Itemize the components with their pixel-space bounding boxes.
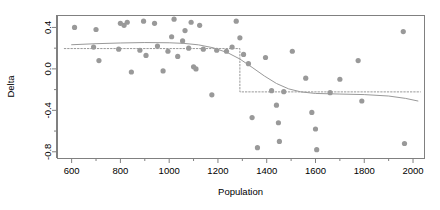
x-tick-label: 1400	[256, 165, 277, 176]
data-point	[182, 28, 187, 33]
data-point	[143, 53, 148, 58]
data-point	[125, 20, 130, 25]
scatter-plot-figure: 600800100012001400160018002000 0.40.0-0.…	[0, 0, 440, 210]
data-point	[234, 19, 239, 24]
data-point	[274, 103, 279, 108]
data-point	[276, 120, 281, 125]
y-tick-label: -0.8	[42, 144, 53, 160]
data-point	[93, 27, 98, 32]
y-tick-label: 0.4	[42, 21, 53, 34]
data-point	[281, 89, 286, 94]
data-point	[175, 54, 180, 59]
data-point	[303, 76, 308, 81]
data-point	[129, 69, 134, 74]
x-tick-label: 1600	[305, 165, 326, 176]
y-axis: 0.40.0-0.4-0.8	[42, 15, 57, 160]
data-point	[165, 49, 170, 54]
data-point	[155, 43, 160, 48]
y-tick-label: -0.4	[42, 102, 53, 118]
data-point	[356, 58, 361, 63]
data-point	[180, 38, 185, 43]
y-tick-label: 0.0	[42, 62, 53, 75]
data-point	[152, 21, 157, 26]
data-point	[314, 147, 319, 152]
data-point	[209, 92, 214, 97]
chart-canvas: 600800100012001400160018002000 0.40.0-0.…	[0, 0, 440, 210]
data-point	[116, 47, 121, 52]
data-point	[96, 58, 101, 63]
data-point	[189, 20, 194, 25]
data-point	[72, 25, 77, 30]
data-point	[193, 66, 198, 71]
data-point	[269, 88, 274, 93]
data-point	[290, 49, 295, 54]
data-point	[309, 110, 314, 115]
data-point	[359, 98, 364, 103]
data-point	[401, 29, 406, 34]
data-point	[141, 19, 146, 24]
x-axis: 600800100012001400160018002000	[57, 158, 424, 176]
data-point	[255, 145, 260, 150]
x-tick-label: 1800	[354, 165, 375, 176]
x-tick-label: 600	[64, 165, 80, 176]
data-point	[224, 49, 229, 54]
data-point	[229, 45, 234, 50]
data-point	[171, 17, 176, 22]
data-point	[214, 48, 219, 53]
data-point	[337, 77, 342, 82]
x-tick-label: 1200	[207, 165, 228, 176]
data-point	[328, 90, 333, 95]
x-tick-label: 1000	[159, 165, 180, 176]
x-axis-title: Population	[218, 186, 263, 197]
data-point	[402, 141, 407, 146]
data-point	[137, 48, 142, 53]
x-tick-label: 800	[112, 165, 128, 176]
data-point	[186, 46, 191, 51]
data-point	[313, 126, 318, 131]
data-point	[91, 45, 96, 50]
data-point	[246, 61, 251, 66]
data-point	[237, 35, 242, 40]
data-point	[277, 139, 282, 144]
data-point	[249, 115, 254, 120]
x-tick-label: 2000	[402, 165, 423, 176]
y-axis-title: Delta	[5, 75, 16, 98]
data-point	[241, 52, 246, 57]
data-point	[197, 23, 202, 28]
data-point	[201, 47, 206, 52]
data-point	[160, 68, 165, 73]
data-point	[263, 55, 268, 60]
data-point	[169, 34, 174, 39]
